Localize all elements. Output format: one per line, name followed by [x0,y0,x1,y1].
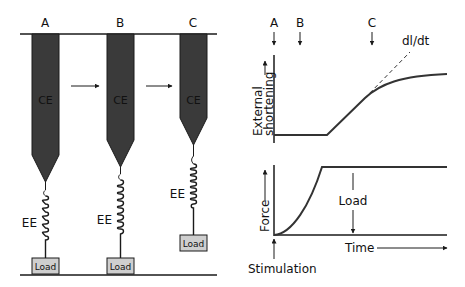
state-c: C CE EE Load [170,16,207,251]
force-load-label: Load [339,194,368,208]
tangent-label: dl/dt [402,34,430,48]
contractile-element-a [32,34,59,182]
ee-lead-c [192,145,194,164]
force-chart: Force Load Time Stimulation [248,165,447,276]
shortening-curve [274,74,447,135]
ee-label-a: EE [22,216,37,230]
time-label: Time [344,241,374,255]
elastic-element-spring-c [191,164,197,235]
ce-label-a: CE [38,94,53,107]
ee-label-b: EE [97,213,112,227]
ce-label-b: CE [113,94,128,107]
contractile-element-c [180,34,207,145]
force-y-label: Force [258,200,272,232]
load-label-b: Load [110,262,132,272]
elastic-element-spring-b [118,180,124,258]
tangent-dl-dt-line [365,52,410,98]
marker-label-c: C [368,16,376,30]
ce-label-c: CE [186,94,201,107]
left-panel: A CE EE Load B CE EE Load [20,16,217,275]
load-label-c: Load [183,239,205,249]
marker-label-b: B [296,16,304,30]
shortening-y-label-line2: shortening [262,72,276,136]
ee-label-c: EE [170,187,185,201]
marker-label-a: A [270,16,279,30]
state-label-a: A [41,16,50,30]
load-label-a: Load [35,262,57,272]
elastic-element-spring-a [43,196,49,258]
state-a: A CE EE Load [22,16,59,274]
muscle-model-figure: A CE EE Load B CE EE Load [0,0,465,287]
stimulation-label: Stimulation [248,262,317,276]
state-b: B CE EE Load [97,16,134,274]
state-label-c: C [189,16,197,30]
shortening-chart: A B C External shortening dl/dt [251,16,447,143]
ee-lead-b [119,167,121,180]
state-label-b: B [116,16,124,30]
ee-lead-a [44,182,46,196]
figure-canvas: A CE EE Load B CE EE Load [0,0,465,287]
